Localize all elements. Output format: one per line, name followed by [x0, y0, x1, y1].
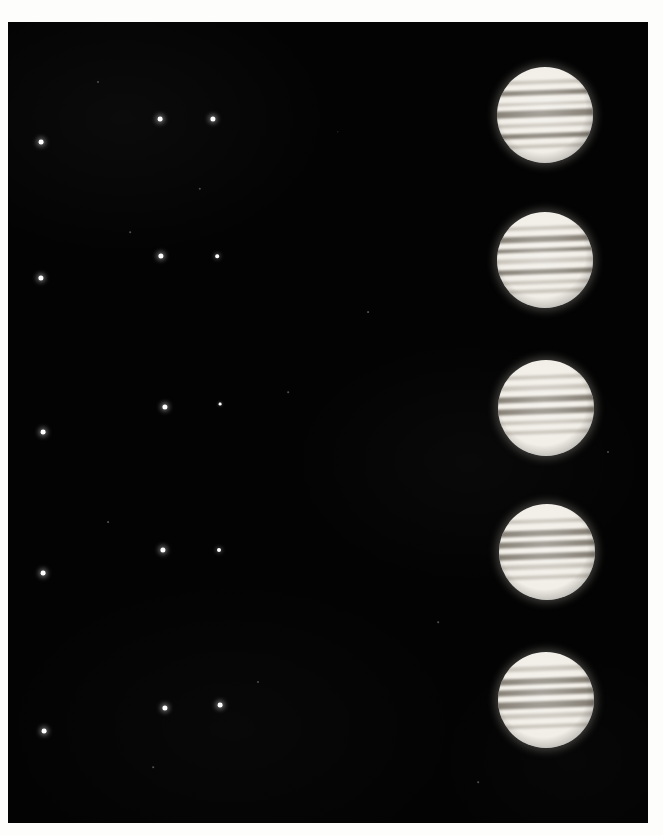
emulsion-speck — [337, 131, 338, 132]
emulsion-speck — [607, 451, 609, 453]
galilean-moon — [217, 548, 221, 552]
jupiter-belt — [497, 142, 593, 149]
emulsion-speck — [199, 188, 201, 190]
galilean-moon — [218, 703, 223, 708]
galilean-moon — [215, 254, 219, 258]
jupiter-belt — [497, 287, 593, 294]
jupiter-belt — [497, 234, 593, 243]
jupiter-belt — [497, 100, 593, 107]
jupiter-belt — [499, 551, 595, 560]
jupiter-belt — [497, 225, 593, 232]
jupiter-belt — [497, 256, 593, 264]
jupiter-disk — [499, 504, 595, 600]
galilean-moon — [162, 705, 167, 710]
jupiter-disk — [498, 652, 594, 748]
jupiter-belt — [497, 267, 593, 276]
jupiter-cloud-belts — [499, 504, 595, 600]
galilean-moon — [38, 275, 43, 280]
galilean-moon — [41, 430, 46, 435]
jupiter-belt — [498, 383, 594, 391]
galilean-moon — [39, 140, 44, 145]
jupiter-disk — [497, 67, 593, 163]
jupiter-belt — [498, 712, 594, 720]
jupiter-belt — [498, 722, 594, 729]
jupiter-cloud-belts — [497, 67, 593, 163]
emulsion-speck — [437, 621, 439, 623]
galilean-moon — [219, 403, 222, 406]
jupiter-belt — [498, 428, 594, 435]
jupiter-belt — [497, 108, 593, 118]
galilean-moon — [41, 571, 46, 576]
jupiter-belt — [498, 406, 594, 415]
emulsion-speck — [367, 311, 369, 313]
jupiter-belt — [499, 563, 595, 571]
jupiter-belt — [498, 665, 594, 673]
jupiter-belt — [498, 394, 594, 404]
galilean-moon — [158, 117, 163, 122]
jupiter-disk — [497, 212, 593, 308]
galilean-moon — [162, 404, 167, 409]
jupiter-belt — [497, 278, 593, 285]
galilean-moon — [160, 547, 165, 552]
jupiter-disk — [498, 360, 594, 456]
jupiter-belt — [499, 518, 595, 525]
jupiter-belt — [498, 699, 594, 709]
jupiter-cloud-belts — [497, 212, 593, 308]
jupiter-belt — [497, 246, 593, 254]
photographic-plate — [0, 0, 663, 835]
jupiter-belt — [498, 676, 594, 685]
jupiter-belt — [499, 540, 595, 549]
galilean-moon — [42, 729, 47, 734]
jupiter-belt — [499, 573, 595, 580]
emulsion-speck — [287, 391, 289, 393]
galilean-moon — [158, 253, 163, 258]
night-sky-field — [8, 22, 648, 823]
jupiter-belt — [498, 418, 594, 426]
jupiter-cloud-belts — [498, 652, 594, 748]
emulsion-speck — [129, 231, 131, 233]
jupiter-belt — [499, 528, 595, 537]
jupiter-belt — [497, 121, 593, 129]
jupiter-belt — [498, 374, 594, 381]
jupiter-belt — [498, 688, 594, 697]
jupiter-belt — [497, 88, 593, 96]
jupiter-belt — [497, 131, 593, 139]
emulsion-speck — [97, 81, 99, 83]
emulsion-speck — [257, 681, 259, 683]
emulsion-speck — [477, 781, 479, 783]
emulsion-speck — [107, 521, 109, 523]
galilean-moon — [210, 116, 215, 121]
jupiter-cloud-belts — [498, 360, 594, 456]
jupiter-belt — [497, 79, 593, 86]
emulsion-speck — [152, 766, 154, 768]
